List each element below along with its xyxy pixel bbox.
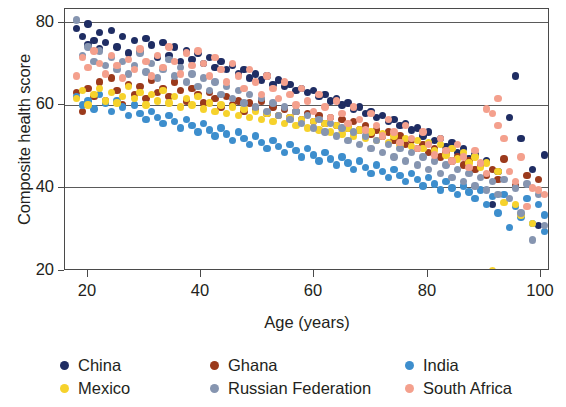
data-point	[131, 66, 138, 73]
data-point	[275, 95, 282, 102]
data-point	[194, 83, 201, 90]
data-point	[489, 267, 496, 270]
y-tick-mark-20	[58, 270, 64, 271]
data-point	[108, 108, 115, 115]
data-point	[240, 85, 247, 92]
data-point	[108, 52, 115, 59]
gridline-80	[65, 22, 548, 23]
data-point	[108, 27, 115, 34]
data-point	[119, 93, 126, 100]
x-tick-label-60: 60	[283, 281, 343, 300]
data-point	[229, 103, 236, 110]
data-point	[229, 137, 236, 144]
data-point	[84, 64, 91, 71]
data-point	[338, 110, 345, 117]
data-point	[281, 103, 288, 110]
legend-item-russian-federation[interactable]: Russian Federation	[210, 379, 371, 398]
data-point	[315, 157, 322, 164]
data-point	[188, 62, 195, 69]
data-point	[159, 87, 166, 94]
data-point	[142, 101, 149, 108]
data-point	[448, 157, 455, 164]
data-point	[500, 155, 507, 162]
data-point	[517, 153, 524, 160]
data-point	[437, 135, 444, 142]
x-tick-mark-100	[540, 270, 541, 277]
data-point	[535, 201, 542, 208]
data-point	[425, 166, 432, 173]
data-point	[483, 186, 490, 193]
data-point	[96, 85, 103, 92]
data-point	[113, 43, 120, 50]
legend-item-mexico[interactable]: Mexico	[60, 379, 130, 398]
data-point	[465, 164, 472, 171]
data-point	[414, 161, 421, 168]
data-point	[402, 157, 409, 164]
data-point	[512, 184, 519, 191]
legend-label: Mexico	[78, 379, 130, 398]
data-point	[541, 151, 548, 158]
data-point	[108, 89, 115, 96]
data-point	[206, 99, 213, 106]
data-point	[471, 147, 478, 154]
data-point	[350, 128, 357, 135]
data-point	[125, 56, 132, 63]
data-point	[362, 126, 369, 133]
data-point	[367, 110, 374, 117]
data-point	[419, 182, 426, 189]
y-tick-label-20: 20	[2, 260, 54, 279]
data-point	[113, 99, 120, 106]
data-point	[269, 85, 276, 92]
data-point	[286, 116, 293, 123]
data-point	[460, 153, 467, 160]
data-point	[119, 33, 126, 40]
y-axis-title: Composite health score	[15, 10, 34, 270]
data-point	[252, 78, 259, 85]
data-point	[136, 45, 143, 52]
plot-area	[64, 8, 549, 270]
legend-label: Ghana	[228, 356, 278, 375]
data-point	[321, 103, 328, 110]
data-point	[217, 101, 224, 108]
data-point	[390, 153, 397, 160]
data-point	[188, 101, 195, 108]
data-point	[494, 95, 501, 102]
data-point	[506, 168, 513, 175]
data-point	[84, 20, 91, 27]
data-point	[281, 149, 288, 156]
data-point	[367, 145, 374, 152]
data-point	[119, 74, 126, 81]
x-tick-label-100: 100	[510, 281, 566, 300]
x-tick-label-40: 40	[170, 281, 230, 300]
legend-item-china[interactable]: China	[60, 356, 121, 375]
data-point	[471, 182, 478, 189]
data-point	[437, 170, 444, 177]
data-point	[171, 93, 178, 100]
data-point	[177, 70, 184, 77]
data-point	[269, 118, 276, 125]
data-point	[188, 70, 195, 77]
data-point	[102, 39, 109, 46]
data-point	[235, 112, 242, 119]
x-tick-label-20: 20	[57, 281, 117, 300]
legend-item-ghana[interactable]: Ghana	[210, 356, 278, 375]
data-point	[442, 147, 449, 154]
data-point	[73, 72, 80, 79]
legend-item-india[interactable]: India	[405, 356, 459, 375]
data-point	[125, 83, 132, 90]
data-point	[240, 99, 247, 106]
data-point	[385, 174, 392, 181]
data-point	[84, 101, 91, 108]
data-point	[356, 157, 363, 164]
data-point	[90, 47, 97, 54]
legend-swatch-icon	[210, 384, 219, 393]
data-point	[194, 93, 201, 100]
data-point	[125, 112, 132, 119]
y-tick-label-40: 40	[2, 177, 54, 196]
data-point	[223, 110, 230, 117]
data-point	[211, 108, 218, 115]
data-point	[200, 60, 207, 67]
data-point	[321, 128, 328, 135]
legend-item-south-africa[interactable]: South Africa	[405, 379, 512, 398]
data-point	[298, 153, 305, 160]
